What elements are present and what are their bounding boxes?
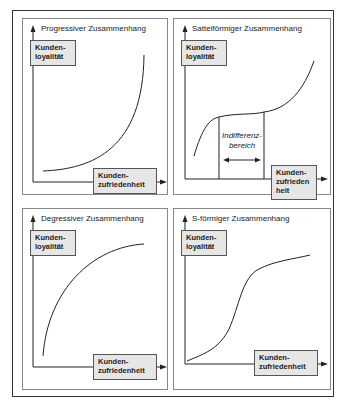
panel-title: Progressiver Zusammenhang <box>41 24 146 33</box>
annotation-line2: bereich <box>219 141 265 151</box>
y-label-line2: loyalität <box>35 52 71 61</box>
y-label-line2: loyalität <box>186 52 222 61</box>
x-axis-arrow-icon <box>321 177 328 182</box>
x-label-line1: Kunden- <box>98 171 152 180</box>
y-label-line1: Kunden- <box>186 233 222 242</box>
y-axis-arrow-icon <box>183 25 188 32</box>
y-label-line2: loyalität <box>186 242 222 251</box>
x-axis-label-box: Kunden- zufrieden heit <box>271 165 317 200</box>
panel-saddle: Sattelförmiger Zusammenhang Kunden- loya… <box>173 18 331 195</box>
x-label-line2: zufrieden <box>276 177 312 186</box>
x-axis-arrow-icon <box>160 365 167 370</box>
panel-degressive: Degressiver Zusammenhang Kunden- loyalit… <box>22 208 168 390</box>
y-label-line2: loyalität <box>35 242 71 251</box>
x-axis-arrow-icon <box>160 180 167 185</box>
y-axis-arrow-icon <box>31 215 36 222</box>
x-label-line3: heit <box>276 186 312 195</box>
panel-title: Sattelförmiger Zusammenhang <box>192 24 302 33</box>
annotation-line1: Indifferenz- <box>219 131 265 141</box>
y-label-line1: Kunden- <box>186 43 222 52</box>
y-axis-label-box: Kunden- loyalität <box>30 230 76 256</box>
degressive-curve <box>43 244 144 356</box>
progressive-curve <box>43 55 144 171</box>
x-axis-label-box: Kunden- zufriedenheit <box>93 168 157 194</box>
y-axis-label-box: Kunden- loyalität <box>181 40 227 66</box>
y-axis-label-box: Kunden- loyalität <box>30 40 76 66</box>
y-label-line1: Kunden- <box>35 43 71 52</box>
x-label-line2: zufriedenheit <box>98 366 152 375</box>
x-axis-label-box: Kunden- zufriedenheit <box>93 354 157 380</box>
y-axis-arrow-icon <box>183 215 188 222</box>
x-label-line1: Kunden- <box>259 353 313 362</box>
panel-s-shaped: S-förmiger Zusammenhang Kunden- loyalitä… <box>173 208 331 390</box>
x-label-line1: Kunden- <box>98 357 152 366</box>
x-label-line2: zufriedenheit <box>98 180 152 189</box>
panel-progressive: Progressiver Zusammenhang Kunden- loyali… <box>22 18 168 195</box>
s-curve <box>187 255 310 361</box>
y-axis-label-box: Kunden- loyalität <box>181 230 227 256</box>
y-label-line1: Kunden- <box>35 233 71 242</box>
x-label-line1: Kunden- <box>276 168 312 177</box>
x-label-line2: zufriedenheit <box>259 362 313 371</box>
indifference-zone-label: Indifferenz- bereich <box>219 131 265 151</box>
panel-title: Degressiver Zusammenhang <box>41 214 144 223</box>
x-axis-label-box: Kunden- zufriedenheit <box>254 350 318 376</box>
y-axis-arrow-icon <box>31 25 36 32</box>
panel-title: S-förmiger Zusammenhang <box>192 214 289 223</box>
x-axis-arrow-icon <box>321 362 328 367</box>
